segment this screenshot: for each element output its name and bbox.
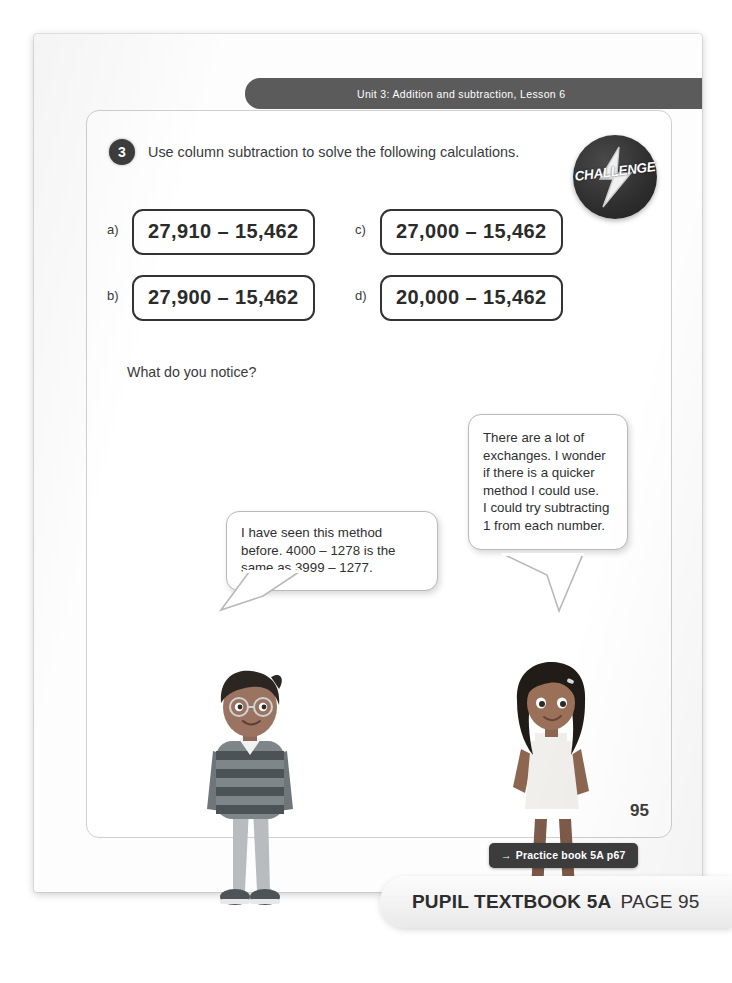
calculation-item-d: d) 20,000 – 15,462 <box>355 275 563 321</box>
calculations-row-2: b) 27,900 – 15,462 d) 20,000 – 15,462 <box>107 275 627 321</box>
textbook-page-scan: Unit 3: Addition and subtraction, Lesson… <box>34 34 702 892</box>
calculation-label-d: d) <box>355 275 374 303</box>
calculation-label-c: c) <box>355 209 374 237</box>
challenge-badge: CHALLENGE <box>573 135 657 219</box>
speech-bubble-boy-text: I have seen this method before. 4000 – 1… <box>241 524 425 577</box>
illustration-boy <box>183 659 317 923</box>
practice-book-link[interactable]: →Practice book 5A p67 <box>489 843 638 868</box>
speech-bubble-boy-tail <box>219 570 305 618</box>
question-number-badge: 3 <box>109 139 135 165</box>
calculation-item-c: c) 27,000 – 15,462 <box>355 209 563 255</box>
calculation-label-b: b) <box>107 275 126 303</box>
calculation-label-a: a) <box>107 209 126 237</box>
calculations-grid: a) 27,910 – 15,462 c) 27,000 – 15,462 b)… <box>107 209 627 341</box>
calculations-row-1: a) 27,910 – 15,462 c) 27,000 – 15,462 <box>107 209 627 255</box>
speech-bubble-girl: There are a lot of exchanges. I wonder i… <box>468 414 628 550</box>
calculation-box-d: 20,000 – 15,462 <box>380 275 563 321</box>
arrow-right-icon: → <box>501 849 512 861</box>
practice-book-label: Practice book 5A p67 <box>516 849 626 861</box>
calculation-item-a: a) 27,910 – 15,462 <box>107 209 355 255</box>
unit-banner: Unit 3: Addition and subtraction, Lesson… <box>245 78 702 109</box>
question-row: 3 Use column subtraction to solve the fo… <box>109 139 519 165</box>
caption-page: PAGE 95 <box>620 891 699 913</box>
calculation-box-b: 27,900 – 15,462 <box>132 275 315 321</box>
caption-bar: PUPIL TEXTBOOK 5A PAGE 95 <box>380 876 732 928</box>
caption-title: PUPIL TEXTBOOK 5A <box>412 891 611 913</box>
notice-prompt: What do you notice? <box>127 364 256 380</box>
page-number: 95 <box>630 801 649 821</box>
question-prompt: Use column subtraction to solve the foll… <box>148 144 519 160</box>
calculation-item-b: b) 27,900 – 15,462 <box>107 275 355 321</box>
speech-bubble-girl-tail <box>497 553 587 615</box>
content-panel: 3 Use column subtraction to solve the fo… <box>86 110 672 838</box>
unit-banner-label: Unit 3: Addition and subtraction, Lesson… <box>357 88 566 100</box>
calculation-box-c: 27,000 – 15,462 <box>380 209 563 255</box>
speech-bubble-boy: I have seen this method before. 4000 – 1… <box>226 511 438 591</box>
calculation-box-a: 27,910 – 15,462 <box>132 209 315 255</box>
speech-bubble-girl-text: There are a lot of exchanges. I wonder i… <box>483 429 615 535</box>
